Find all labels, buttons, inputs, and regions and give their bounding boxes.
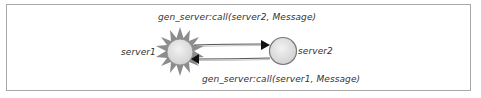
- edge-label-call-server1: gen_server:call(server1, Message): [202, 74, 360, 84]
- server1-circle: [167, 39, 193, 65]
- node-label-server2: server2: [298, 46, 333, 56]
- server1-node: [156, 27, 204, 76]
- edge-label-call-server2: gen_server:call(server2, Message): [158, 12, 316, 22]
- node-label-server1: server1: [121, 47, 156, 57]
- arrowhead-icon: [261, 40, 270, 50]
- edge-server2-to-server1: [191, 54, 270, 64]
- edge-server1-to-server2: [194, 40, 270, 50]
- server2-node: [270, 38, 297, 65]
- server2-circle: [270, 38, 297, 65]
